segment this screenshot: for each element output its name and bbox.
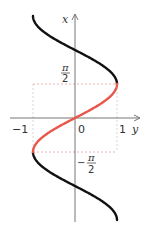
origin-label: 0 bbox=[78, 123, 85, 136]
tick-label-neg-pi-half: − π 2 bbox=[77, 152, 96, 175]
vertical-axis-label: x bbox=[62, 13, 69, 26]
sine-graph-diagram: x y 0 −1 1 π 2 − π 2 bbox=[0, 0, 153, 233]
pi-half-numerator: π bbox=[61, 62, 69, 73]
neg-pi-half-numerator: π bbox=[87, 152, 95, 163]
tick-label-neg-one: −1 bbox=[12, 123, 28, 136]
horizontal-axis-label: y bbox=[131, 123, 139, 136]
neg-pi-half-denominator: 2 bbox=[88, 164, 94, 175]
neg-pi-half-sign: − bbox=[77, 157, 85, 168]
tick-label-pi-half: π 2 bbox=[61, 62, 70, 84]
tick-label-pos-one: 1 bbox=[119, 123, 126, 136]
pi-half-denominator: 2 bbox=[62, 73, 68, 84]
